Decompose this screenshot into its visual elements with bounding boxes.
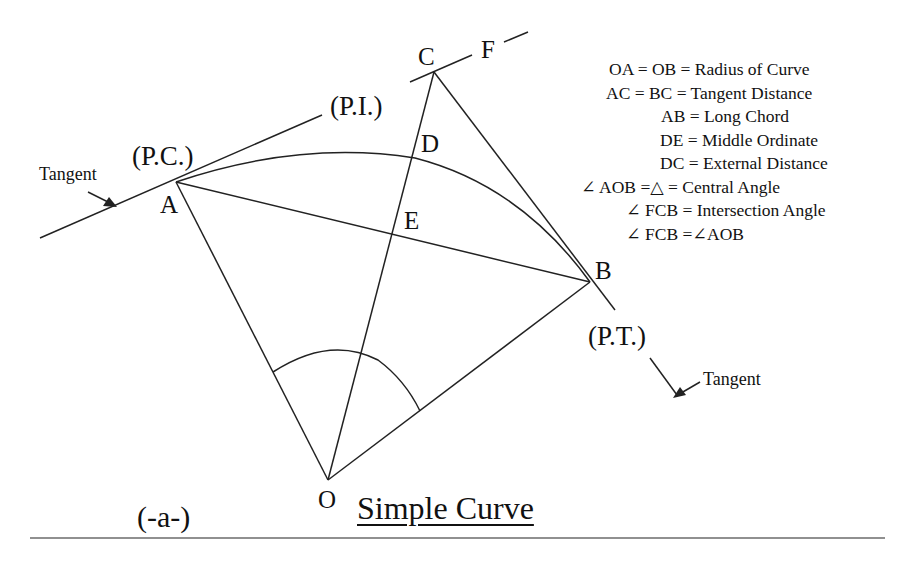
point-d-label: D [421,131,439,156]
legend-item: DC = External Distance [660,152,828,176]
legend-item: AC = BC = Tangent Distance [606,82,812,106]
central-angle-arc [273,350,420,411]
tangent-label-right: Tangent [703,370,761,388]
legend-item: ∠ FCB =∠AOB [626,223,744,247]
tangent-label-left: Tangent [39,165,97,183]
figure-label: (-a-) [137,500,190,534]
legend-item: ∠ FCB = Intersection Angle [626,199,826,223]
point-o-label: O [318,487,336,512]
radius-oa [176,182,328,480]
point-f-label: F [481,37,495,62]
point-e-label: E [404,208,419,233]
legend-item: OA = OB = Radius of Curve [609,58,810,82]
point-b-label: B [595,258,612,283]
tangent-line-right-segment [650,358,677,395]
point-c-label: C [418,44,435,69]
point-a-label: A [160,192,178,217]
pi-label: (P.I.) [330,93,383,120]
radius-ob [328,282,590,480]
legend-item: AB = Long Chord [661,105,789,129]
tangent-line-f-extension [504,32,528,42]
arrowhead-left-icon [103,197,117,207]
simple-curve-arc [176,153,590,282]
legend-item: ∠ AOB =△ = Central Angle [581,176,780,200]
diagram-title: Simple Curve [357,490,534,527]
legend-item: DE = Middle Ordinate [660,129,818,153]
pc-label: (P.C.) [132,143,194,170]
pt-label: (P.T.) [588,323,646,350]
line-oc [328,72,434,480]
